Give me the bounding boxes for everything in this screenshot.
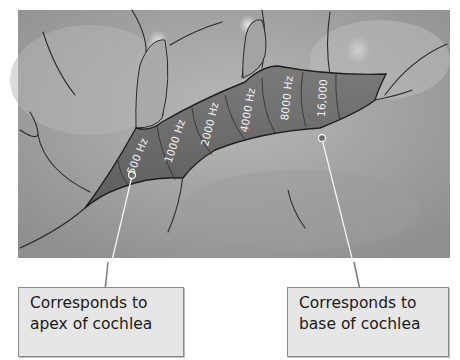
base-callout-line1: Corresponds to bbox=[299, 293, 438, 314]
base-marker bbox=[319, 135, 326, 142]
apex-callout: Corresponds to apex of cochlea bbox=[18, 287, 184, 357]
base-callout-line2: base of cochlea bbox=[299, 314, 438, 335]
apex-callout-line2: apex of cochlea bbox=[30, 314, 173, 335]
apex-callout-line1: Corresponds to bbox=[30, 293, 173, 314]
base-callout: Corresponds to base of cochlea bbox=[287, 287, 449, 357]
